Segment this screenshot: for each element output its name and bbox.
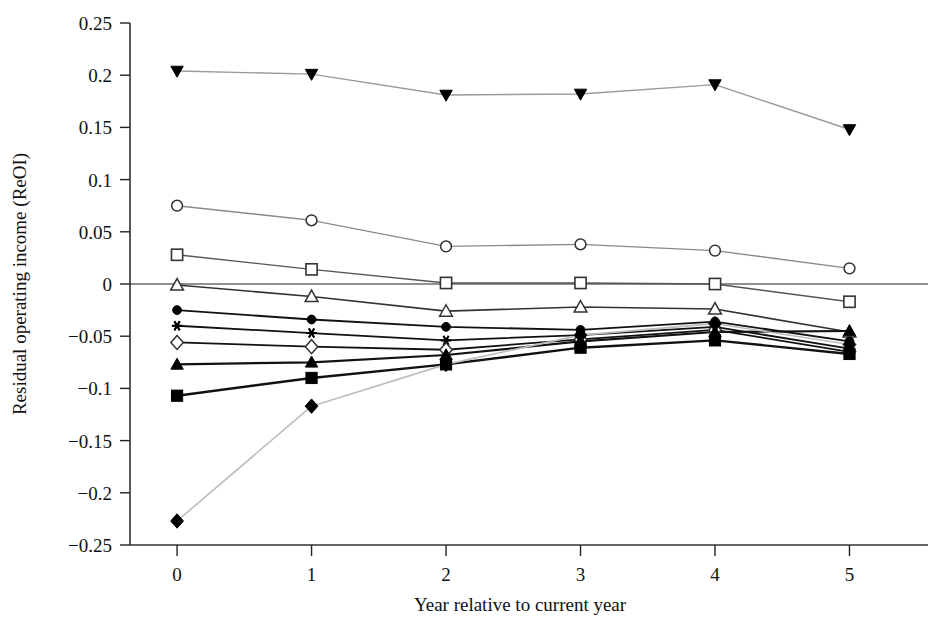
series-line (177, 206, 849, 269)
series-markers-portfolio-10 (171, 66, 856, 135)
data-point-marker-open-square (844, 296, 855, 307)
data-point-marker-open-square (440, 277, 451, 288)
series-portfolio-1 (177, 324, 849, 521)
series-portfolio-9 (177, 206, 849, 269)
data-point-marker-filled-circle (307, 315, 316, 324)
data-point-marker-open-square (575, 277, 586, 288)
series-portfolio-7 (177, 285, 849, 332)
data-point-marker-open-diamond (305, 340, 317, 354)
data-point-marker-open-diamond (171, 335, 183, 349)
data-point-marker-open-circle (441, 241, 452, 252)
x-axis-tick-label: 3 (576, 564, 586, 585)
x-axis-title: Year relative to current year (414, 594, 627, 615)
y-axis-tick-label: −0.15 (68, 431, 112, 452)
series-portfolio-10 (177, 71, 849, 129)
y-axis-tick-label: 0 (103, 274, 113, 295)
y-axis-tick-label: 0.25 (79, 13, 112, 34)
data-point-marker-filled-square (306, 372, 317, 383)
y-axis-tick-label: −0.1 (78, 378, 112, 399)
data-point-marker-filled-square (709, 335, 720, 346)
data-point-marker-open-circle (306, 215, 317, 226)
data-point-marker-open-circle (844, 263, 855, 274)
data-point-marker-open-square (306, 264, 317, 275)
series-line (177, 324, 849, 521)
series-line (177, 285, 849, 332)
series-markers-portfolio-9 (172, 200, 855, 273)
y-axis-tick-label: −0.05 (68, 326, 112, 347)
data-point-marker-open-square (709, 278, 720, 289)
residual-operating-income-chart: 0.250.20.150.10.050−0.05−0.1−0.15−0.2−0.… (0, 0, 933, 635)
y-axis-tick-label: 0.1 (88, 170, 112, 191)
x-axis-tick-label: 2 (441, 564, 451, 585)
data-point-marker-filled-square (575, 342, 586, 353)
x-axis-tick-label: 4 (710, 564, 720, 585)
data-point-marker-filled-diamond (305, 399, 318, 413)
data-point-marker-open-circle (710, 245, 721, 256)
data-point-marker-filled-circle (442, 322, 451, 331)
y-axis-title: Residual operating income (ReOI) (9, 153, 31, 415)
data-point-marker-asterisk (172, 321, 182, 330)
data-point-marker-filled-diamond (171, 514, 184, 528)
x-axis-tick-label: 5 (845, 564, 855, 585)
series-line (177, 71, 849, 129)
data-point-marker-open-circle (575, 239, 586, 250)
data-point-marker-open-circle (172, 200, 183, 211)
series-line (177, 255, 849, 302)
data-point-marker-filled-triangle-down (440, 90, 452, 101)
data-point-marker-filled-square (171, 390, 182, 401)
y-axis-tick-label: −0.2 (78, 483, 112, 504)
data-point-marker-asterisk (306, 329, 316, 338)
y-axis-tick-label: 0.15 (79, 117, 112, 138)
series-markers-portfolio-6 (173, 306, 854, 346)
data-point-marker-filled-triangle-down (843, 125, 855, 136)
chart-canvas: 0.250.20.150.10.050−0.05−0.1−0.15−0.2−0.… (0, 0, 933, 635)
x-axis-tick-label: 1 (307, 564, 317, 585)
y-axis-tick-label: 0.05 (79, 222, 112, 243)
series-portfolio-8 (177, 255, 849, 302)
data-point-marker-filled-circle (173, 306, 182, 315)
y-axis-tick-label: 0.2 (88, 65, 112, 86)
series-markers-portfolio-8 (171, 249, 855, 307)
x-axis-tick-label: 0 (172, 564, 182, 585)
data-point-marker-open-square (171, 249, 182, 260)
y-axis-tick-label: −0.25 (68, 535, 112, 556)
